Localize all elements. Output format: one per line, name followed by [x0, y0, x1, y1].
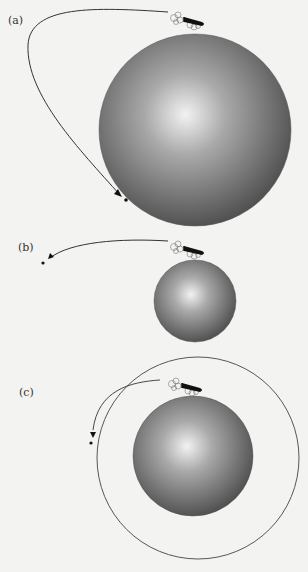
- panel-label-c: (c): [19, 386, 34, 399]
- trajectory-path-b: [50, 240, 168, 258]
- panel-label-b: (b): [18, 241, 34, 254]
- planet-sphere-c: [133, 396, 253, 516]
- projectile-dot: [89, 441, 92, 444]
- diagram-canvas: (a) (b) (c): [0, 0, 308, 572]
- panel-label-a: (a): [8, 14, 23, 27]
- arrowhead-icon: [90, 432, 96, 438]
- planet-sphere-a: [99, 34, 291, 226]
- panel-a: (a): [8, 9, 291, 226]
- cannon-icon: [169, 378, 203, 396]
- projectile-dot: [41, 261, 44, 264]
- planet-sphere-b: [154, 260, 236, 342]
- projectile-dot: [124, 198, 128, 202]
- cannon-icon: [171, 12, 205, 30]
- cannon-icon: [171, 241, 205, 259]
- panel-c: (c): [19, 357, 299, 559]
- panel-b: (b): [18, 240, 236, 342]
